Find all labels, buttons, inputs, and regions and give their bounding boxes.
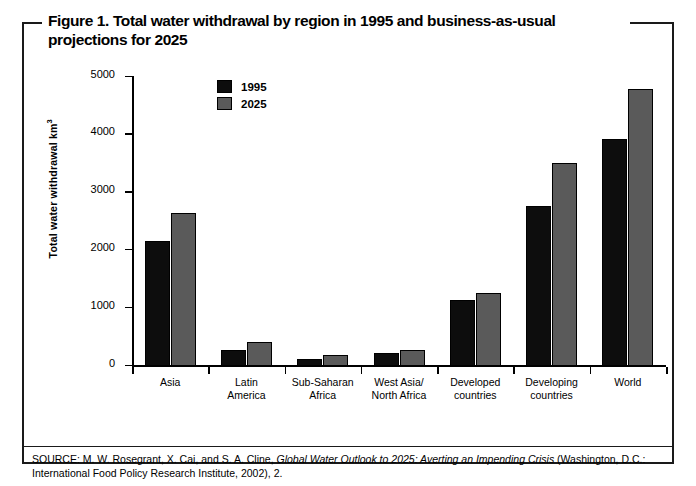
source-prefix: SOURCE: M. W. Rosegrant, X. Cai, and S. … <box>32 453 277 465</box>
x-axis-category-label: Sub-SaharanAfrica <box>285 376 361 401</box>
bar-1995 <box>450 300 475 366</box>
x-axis-category-label-line: West Asia/ <box>361 376 437 389</box>
x-axis-category-label-line: Developing <box>513 376 589 389</box>
bar-2025 <box>247 342 272 366</box>
figure-title-line-1: Figure 1. Total water withdrawal by regi… <box>48 11 624 30</box>
bar-2025 <box>171 213 196 366</box>
y-axis-title-exponent: 3 <box>45 119 54 123</box>
bar-1995 <box>374 353 399 366</box>
source-note: SOURCE: M. W. Rosegrant, X. Cai, and S. … <box>32 452 664 480</box>
source-divider <box>24 446 672 447</box>
x-axis-category-label: Developingcountries <box>513 376 589 401</box>
x-axis-category-label: World <box>590 376 666 389</box>
y-axis-line <box>132 76 134 367</box>
y-axis-tick-label: 3000 <box>91 183 115 195</box>
figure-frame: Figure 1. Total water withdrawal by regi… <box>22 22 674 464</box>
figure-title-line-2: projections for 2025 <box>48 30 624 49</box>
chart-axes: 010002000300040005000 AsiaLatinAmericaSu… <box>132 76 666 366</box>
x-axis-category-label-line: America <box>208 389 284 402</box>
x-axis-category-label-line: countries <box>437 389 513 402</box>
bar-2025 <box>552 163 577 366</box>
x-axis-tick <box>361 367 363 374</box>
source-title-italic: Global Water Outlook to 2025: Averting a… <box>277 453 555 465</box>
y-axis-tick: 3000 <box>125 191 132 193</box>
bar-1995 <box>526 206 551 366</box>
y-axis-tick: 4000 <box>125 133 132 135</box>
legend-label: 1995 <box>241 81 267 93</box>
x-axis-tick <box>285 367 287 374</box>
bar-1995 <box>602 139 627 366</box>
y-axis-tick-label: 5000 <box>91 68 115 80</box>
y-axis-tick: 1000 <box>125 307 132 309</box>
x-axis-tick <box>590 367 592 374</box>
x-axis-category-label-line: Africa <box>285 389 361 402</box>
y-axis-tick: 0 <box>125 365 132 367</box>
chart-plot-area: Total water withdrawal km3 0100020003000… <box>24 60 672 390</box>
legend-swatch <box>217 97 232 110</box>
x-axis-category-label: Asia <box>132 376 208 389</box>
legend-item: 1995 <box>217 78 307 95</box>
figure-title: Figure 1. Total water withdrawal by regi… <box>42 11 630 49</box>
x-axis-category-label-line: countries <box>513 389 589 402</box>
bar-2025 <box>400 350 425 366</box>
x-axis-category-label-line: World <box>590 376 666 389</box>
x-axis-category-label: West Asia/North Africa <box>361 376 437 401</box>
y-axis-tick-label: 0 <box>109 357 115 369</box>
bar-1995 <box>221 350 246 366</box>
legend-label: 2025 <box>241 98 267 110</box>
y-axis-title: Total water withdrawal km3 <box>45 89 59 289</box>
bar-2025 <box>628 89 653 366</box>
y-axis-tick: 5000 <box>125 76 132 78</box>
x-axis-tick <box>666 367 668 374</box>
x-axis-category-label: Developedcountries <box>437 376 513 401</box>
x-axis-tick <box>437 367 439 374</box>
y-axis-tick: 2000 <box>125 249 132 251</box>
x-axis-category-label-line: Sub-Saharan <box>285 376 361 389</box>
y-axis-tick-label: 1000 <box>91 299 115 311</box>
legend-item: 2025 <box>217 95 307 112</box>
bar-1995 <box>297 359 322 366</box>
x-axis-tick <box>208 367 210 374</box>
x-axis-tick <box>132 367 134 374</box>
x-axis-category-label-line: North Africa <box>361 389 437 402</box>
chart-legend: 19952025 <box>217 78 307 112</box>
y-axis-tick-label: 2000 <box>91 241 115 253</box>
x-axis-category-label-line: Latin <box>208 376 284 389</box>
x-axis-tick <box>513 367 515 374</box>
x-axis-category-label: LatinAmerica <box>208 376 284 401</box>
bar-1995 <box>145 241 170 366</box>
y-axis-tick-label: 4000 <box>91 125 115 137</box>
x-axis-category-label-line: Asia <box>132 376 208 389</box>
bar-2025 <box>323 355 348 366</box>
legend-swatch <box>217 80 232 93</box>
y-axis-title-text: Total water withdrawal km <box>47 123 59 258</box>
x-axis-category-label-line: Developed <box>437 376 513 389</box>
bar-2025 <box>476 293 501 366</box>
